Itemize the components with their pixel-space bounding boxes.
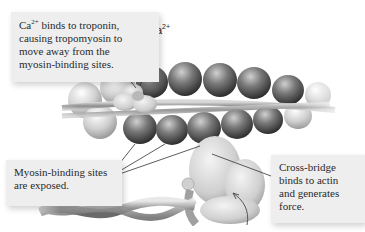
callout-cross-bridge: Cross-bridge binds to actin and generate…: [271, 155, 365, 223]
calcium-charge: 2+: [162, 23, 170, 30]
callout-line: Ca2+ binds to troponin,: [19, 19, 151, 32]
callout-line: force.: [279, 200, 357, 213]
callout-line: myosin-binding sites.: [19, 58, 151, 71]
callout-calcium-troponin: Ca2+ binds to troponin, causing tropomyo…: [11, 12, 159, 82]
callout-line: binds to actin: [279, 174, 357, 187]
callout-line: move away from the: [19, 45, 151, 58]
callout-line: Cross-bridge: [279, 161, 357, 174]
callout-line: Myosin-binding sites: [14, 166, 114, 179]
myosin-head: [182, 136, 265, 225]
calcium-charge: 2+: [31, 18, 38, 26]
calcium-base: Ca: [19, 19, 31, 31]
callout-line: causing tropomyosin to: [19, 32, 151, 45]
callout-line: are exposed.: [14, 179, 114, 192]
callout-text: binds to troponin,: [39, 19, 120, 31]
callout-line: and generates: [279, 187, 357, 200]
callout-binding-sites: Myosin-binding sites are exposed.: [6, 160, 122, 206]
